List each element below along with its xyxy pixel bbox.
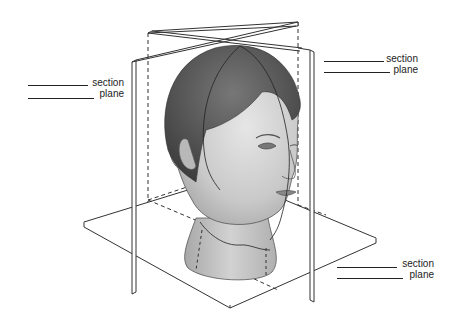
label-line1: section bbox=[88, 77, 124, 88]
section-plane-label-top-right: section plane bbox=[382, 53, 418, 75]
leader-line-left-1 bbox=[28, 85, 88, 86]
label-line2: plane bbox=[398, 269, 434, 280]
leader-line-top-right-1 bbox=[324, 61, 384, 62]
leader-line-left-2 bbox=[28, 98, 94, 99]
head-section-planes-diagram bbox=[0, 0, 454, 322]
leader-line-top-right-2 bbox=[324, 72, 390, 73]
label-line1: section bbox=[382, 53, 418, 64]
label-line2: plane bbox=[88, 88, 124, 99]
label-line2: plane bbox=[382, 64, 418, 75]
label-line1: section bbox=[398, 258, 434, 269]
leader-line-bottom-right-2 bbox=[337, 278, 403, 279]
section-plane-label-bottom-right: section plane bbox=[398, 258, 434, 280]
leader-line-bottom-right-1 bbox=[337, 267, 397, 268]
section-plane-label-left: section plane bbox=[88, 77, 124, 99]
